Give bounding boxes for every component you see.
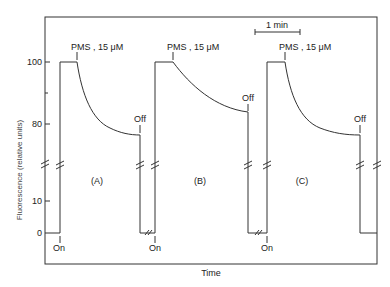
pms-label-b: PMS , 15 μM — [167, 42, 219, 52]
y-tick-0: 0 — [37, 228, 42, 238]
y-tick-10: 10 — [32, 196, 42, 206]
pms-label-c: PMS , 15 μM — [279, 42, 331, 52]
plot-frame — [45, 17, 377, 264]
x-axis-label: Time — [201, 268, 221, 278]
y-tick-80: 80 — [32, 119, 42, 129]
on-label-b: On — [149, 243, 161, 253]
off-label-b: Off — [242, 93, 254, 103]
y-axis-label: Fluorescence (relative units) — [15, 119, 24, 220]
trace-a: PMS , 15 μM Off On (A) — [45, 42, 155, 253]
panel-label-c: (C) — [296, 176, 309, 186]
on-label-a: On — [53, 243, 65, 253]
trace-b: PMS , 15 μM Off On (B) — [145, 42, 267, 253]
fluorescence-chart: 100 80 10 0 Fluorescence (relative units… — [0, 0, 390, 287]
panel-label-a: (A) — [91, 176, 103, 186]
scale-bar: 1 min — [255, 20, 300, 35]
pms-label-a: PMS , 15 μM — [71, 42, 123, 52]
trace-c: PMS , 15 μM Off On (C) — [255, 42, 381, 253]
on-label-c: On — [261, 243, 273, 253]
off-label-a: Off — [134, 114, 146, 124]
panel-label-b: (B) — [194, 176, 206, 186]
y-axis: 100 80 10 0 — [27, 57, 50, 238]
y-tick-100: 100 — [27, 57, 42, 67]
svg-text:1 min: 1 min — [266, 20, 288, 30]
off-label-c: Off — [354, 114, 366, 124]
